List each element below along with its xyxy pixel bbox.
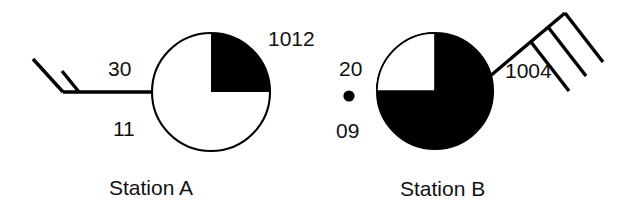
station-b-dewpoint: 09 xyxy=(336,120,359,141)
station-b-group xyxy=(343,13,603,149)
sky-cover-open-quadrant xyxy=(377,33,435,91)
station-a-group xyxy=(33,33,270,151)
station-b-temperature: 20 xyxy=(339,58,362,79)
wind-full-barb-1 xyxy=(33,59,63,92)
station-a-sky-cover xyxy=(152,33,270,151)
station-model-figure: 30 11 1012 Station A 20 09 1004 Station … xyxy=(0,0,629,219)
station-a-pressure: 1012 xyxy=(268,28,315,49)
station-b-pressure: 1004 xyxy=(505,60,552,81)
station-a-label: Station A xyxy=(109,177,193,198)
station-a-dewpoint: 11 xyxy=(113,118,135,139)
station-a-wind-barb xyxy=(33,59,152,92)
sky-cover-filled-quadrant xyxy=(211,33,270,92)
station-a-temperature: 30 xyxy=(108,58,131,79)
wind-full-barb-2 xyxy=(62,71,79,92)
station-b-sky-cover xyxy=(377,33,493,149)
station-b-label: Station B xyxy=(400,178,485,199)
present-weather-dot-icon xyxy=(343,90,354,101)
